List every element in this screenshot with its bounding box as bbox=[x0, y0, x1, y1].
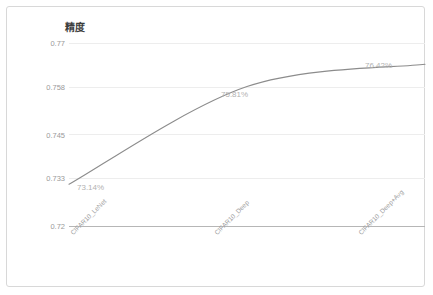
data-label-cifar10-lenet: 73.14% bbox=[77, 183, 104, 192]
series-line-path bbox=[69, 64, 425, 184]
chart-title: 精度 bbox=[65, 19, 86, 34]
y-tick-label-1: 0.758 bbox=[46, 82, 65, 91]
y-axis-tick-labels: 0.77 0.758 0.745 0.733 0.72 bbox=[33, 43, 65, 226]
data-label-cifar10-deep-avg: 76.42% bbox=[365, 61, 392, 70]
series-line-chart bbox=[69, 43, 425, 226]
y-tick-label-4: 0.72 bbox=[50, 222, 65, 231]
y-tick-label-2: 0.745 bbox=[46, 130, 65, 139]
plot-area: 73.14% 75.81% 76.42% bbox=[69, 43, 425, 226]
data-label-cifar10-deep: 75.81% bbox=[221, 90, 248, 99]
chart-screenshot: 精度 0.77 0.758 0.745 0.733 0.72 73.14% 75… bbox=[0, 0, 433, 295]
y-tick-label-0: 0.77 bbox=[50, 39, 65, 48]
chart-frame: 精度 0.77 0.758 0.745 0.733 0.72 73.14% 75… bbox=[6, 6, 425, 287]
y-tick-label-3: 0.733 bbox=[46, 174, 65, 183]
x-axis-tick-labels: CIFAR10_LeNet CIFAR10_Deep CIFAR10_Deep+… bbox=[69, 229, 425, 289]
